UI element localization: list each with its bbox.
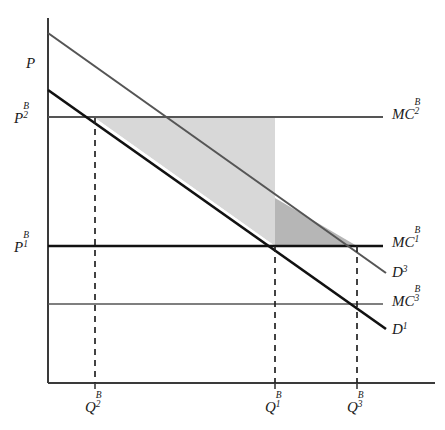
curve-label-mc3b: MCB3 bbox=[392, 290, 422, 309]
price-label-p1b: PB1 bbox=[14, 236, 30, 255]
curve-label-mc1b: MCB1 bbox=[392, 231, 422, 250]
quantity-label-q3b: QB3 bbox=[347, 396, 365, 415]
diagram-canvas bbox=[0, 0, 445, 430]
shaded-region-dark bbox=[275, 198, 357, 246]
curve-label-d3: D3 bbox=[392, 261, 410, 280]
quantity-label-q2b: QB2 bbox=[85, 396, 103, 415]
curve-label-mc2b: MCB2 bbox=[392, 103, 422, 122]
quantity-label-q1b: QB1 bbox=[265, 396, 283, 415]
price-label-p2b: PB2 bbox=[14, 107, 30, 126]
economics-diagram: P PB2 PB1 QB2 QB1 QB3 MCB2 MCB1 D3 MCB3 … bbox=[0, 0, 445, 430]
axis-label-price: P bbox=[26, 55, 35, 71]
curve-label-d1: D1 bbox=[392, 318, 410, 337]
